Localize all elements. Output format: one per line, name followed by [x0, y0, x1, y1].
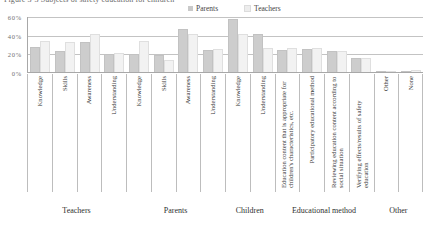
legend-swatch-parents-icon: [188, 6, 193, 11]
bar-group: [324, 17, 349, 72]
bar-teachers: [164, 60, 174, 72]
bar-series-group: [28, 17, 423, 72]
legend-item-teachers: Teachers: [244, 4, 281, 13]
group-label: Other: [389, 206, 407, 215]
category-label-text: Knowledge: [135, 76, 142, 106]
bar-group: [398, 17, 423, 72]
bar-parents: [351, 58, 361, 72]
category-label-cell: Understanding: [250, 74, 275, 192]
category-label-cell: Understanding: [101, 74, 126, 192]
bar-teachers: [40, 41, 50, 72]
bar-group: [151, 17, 176, 72]
bar-teachers: [411, 70, 421, 72]
bar-parents: [253, 34, 263, 72]
bar-group: [226, 17, 251, 72]
group-label: Educational method: [292, 206, 356, 215]
group-label: Teachers: [62, 206, 90, 215]
bar-parents: [277, 50, 287, 72]
bar-parents: [302, 49, 312, 72]
bar-group: [275, 17, 300, 72]
bar-parents: [154, 55, 164, 72]
group-label: Parents: [164, 206, 188, 215]
category-label-text: Understanding: [209, 76, 216, 115]
category-label-cell: Knowledge: [126, 74, 151, 192]
category-label-cell: Verifying effects/results of safety educ…: [349, 74, 374, 192]
category-label-text: Awareness: [185, 76, 192, 104]
bar-parents: [55, 51, 65, 72]
group-label: Children: [236, 206, 264, 215]
bar-parents: [104, 54, 114, 72]
bar-group: [374, 17, 399, 72]
bar-teachers: [263, 48, 273, 72]
category-label-cell: Participatory educational method: [299, 74, 324, 192]
bar-group: [127, 17, 152, 72]
bar-teachers: [337, 51, 347, 72]
chart-container: Figure 3-3 Subjects of safety education …: [0, 0, 426, 235]
category-label-cell: Skills: [52, 74, 77, 192]
category-label-cell: Skills: [151, 74, 176, 192]
plot-area: [27, 17, 423, 73]
bar-group: [102, 17, 127, 72]
bar-teachers: [65, 42, 75, 72]
bar-teachers: [312, 48, 322, 72]
category-label-text: Participatory educational method: [308, 76, 315, 164]
chart-title: Figure 3-3 Subjects of safety education …: [4, 0, 174, 4]
bar-parents: [178, 29, 188, 72]
bar-parents: [228, 19, 238, 72]
bar-teachers: [213, 49, 223, 72]
category-label-cell: Knowledge: [225, 74, 250, 192]
category-label-text: None: [407, 76, 414, 90]
legend-item-parents: Parents: [188, 4, 218, 13]
bar-group: [201, 17, 226, 72]
bar-group: [250, 17, 275, 72]
bar-teachers: [238, 34, 248, 72]
bar-parents: [129, 54, 139, 72]
bar-teachers: [361, 58, 371, 72]
bar-group: [28, 17, 53, 72]
category-label-cell: Education content that is appropriate fo…: [275, 74, 300, 192]
category-label-cell: Knowledge: [27, 74, 52, 192]
category-label-text: Reviewing education content according to…: [329, 76, 344, 188]
category-label-text: Knowledge: [234, 76, 241, 106]
bar-parents: [327, 51, 337, 72]
legend-label-parents: Parents: [196, 4, 218, 13]
category-label-cell: Awareness: [176, 74, 201, 192]
category-label-cell: Understanding: [200, 74, 225, 192]
bar-parents: [401, 71, 411, 72]
y-axis-tick-label: 20%: [8, 51, 22, 58]
bar-group: [77, 17, 102, 72]
bar-parents: [30, 47, 40, 72]
bar-group: [349, 17, 374, 72]
y-axis-tick-label: 0%: [12, 70, 22, 77]
category-label-text: Skills: [160, 76, 167, 91]
chart-legend: Parents Teachers: [188, 4, 281, 13]
category-label-cell: Awareness: [77, 74, 102, 192]
bar-teachers: [188, 34, 198, 72]
category-label-cell: Other: [374, 74, 399, 192]
category-label-text: Understanding: [110, 76, 117, 115]
bar-teachers: [90, 34, 100, 72]
category-label-text: Education content that is appropriate fo…: [280, 76, 295, 188]
category-label-cell: Reviewing education content according to…: [324, 74, 349, 192]
bar-teachers: [287, 48, 297, 72]
group-axis-labels: TeachersParentsChildrenEducational metho…: [27, 206, 423, 224]
y-axis-labels: 0%20%40%60%: [0, 12, 25, 74]
bar-teachers: [139, 41, 149, 72]
legend-label-teachers: Teachers: [254, 4, 281, 13]
category-label-text: Skills: [61, 76, 68, 91]
bar-group: [300, 17, 325, 72]
bar-teachers: [114, 53, 124, 72]
category-label-cell: None: [398, 74, 423, 192]
bar-parents: [376, 71, 386, 72]
y-axis-tick-label: 60%: [8, 14, 22, 21]
bar-teachers: [386, 71, 396, 72]
category-label-text: Understanding: [259, 76, 266, 115]
bar-parents: [80, 42, 90, 72]
legend-swatch-teachers-icon: [244, 5, 251, 12]
category-axis-labels: KnowledgeSkillsAwarenessUnderstandingKno…: [27, 74, 423, 194]
bar-group: [176, 17, 201, 72]
y-axis-tick-label: 40%: [8, 32, 22, 39]
bar-group: [53, 17, 78, 72]
category-label-text: Knowledge: [36, 76, 43, 106]
bar-parents: [203, 50, 213, 72]
